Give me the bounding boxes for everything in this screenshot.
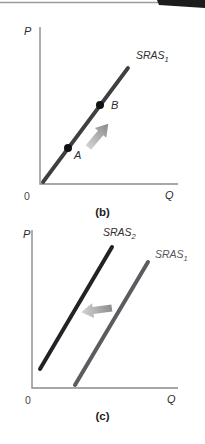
panel-c-caption: (c) <box>0 410 205 422</box>
point-a-dot <box>64 144 72 152</box>
point-a-label: A <box>74 150 81 161</box>
sras1-curve-b <box>43 68 128 182</box>
sras2-label-c: SRAS2 <box>103 227 136 241</box>
x-axis-label-c: Q <box>167 394 176 405</box>
origin-label-b: 0 <box>24 191 30 202</box>
shift-arrow-left-icon <box>80 300 113 319</box>
point-b-dot <box>96 101 104 109</box>
y-axis-label-c: P <box>23 229 30 240</box>
panel-c: P SRAS2 SRAS1 0 Q (c) <box>0 222 205 444</box>
sras1-curve-c <box>75 262 148 385</box>
sras1-label-b: SRAS1 <box>136 50 169 64</box>
sras1-label-c: SRAS1 <box>155 249 188 263</box>
origin-label-c: 0 <box>25 395 31 406</box>
y-axis-label-b: P <box>24 26 31 37</box>
panel-b-caption: (b) <box>0 206 205 218</box>
point-b-label: B <box>111 100 118 111</box>
supply-curve-figure: P SRAS1 B A 0 Q (b) P <box>0 0 205 444</box>
x-axis-label-b: Q <box>165 190 174 201</box>
panel-b: P SRAS1 B A 0 Q (b) <box>0 0 205 222</box>
